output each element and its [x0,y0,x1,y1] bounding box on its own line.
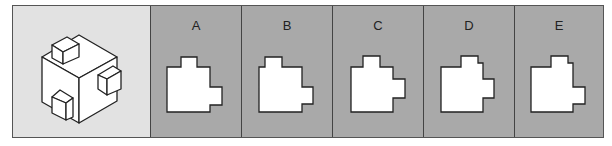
option-label: A [151,18,241,33]
option-label: B [242,18,332,33]
option-label: E [515,18,603,33]
option-c[interactable]: C [333,6,424,137]
option-a[interactable]: A [151,6,242,137]
option-b[interactable]: B [242,6,333,137]
option-label: C [333,18,423,33]
option-label: D [424,18,514,33]
option-d[interactable]: D [424,6,515,137]
option-e[interactable]: E [515,6,603,137]
question-panel [13,6,151,137]
puzzle-container: A B C D E [12,5,604,138]
